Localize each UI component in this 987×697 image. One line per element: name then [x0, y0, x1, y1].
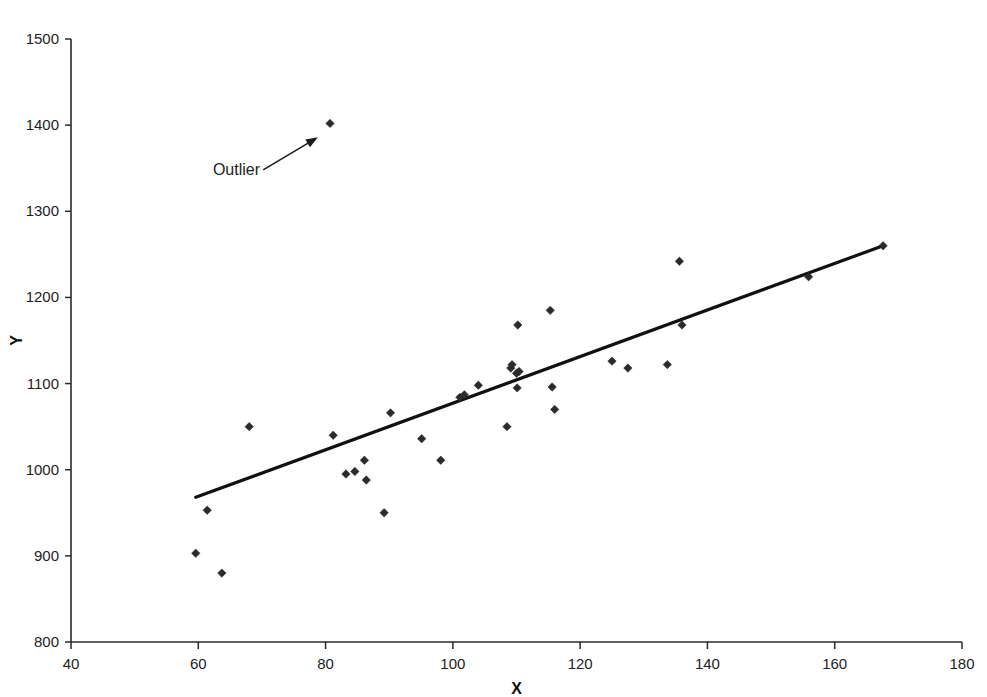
y-axis-tick-label: 1400	[26, 116, 59, 133]
axes-layer: 8009001000110012001300140015004060801001…	[26, 30, 975, 672]
data-point-marker	[546, 306, 554, 314]
data-point-marker	[351, 467, 359, 475]
data-point-marker	[362, 476, 370, 484]
data-point-marker	[417, 435, 425, 443]
y-axis-title: Y	[8, 335, 25, 346]
x-axis-tick-label: 100	[440, 655, 465, 672]
trendline-layer	[196, 246, 883, 498]
data-point-marker	[548, 383, 556, 391]
data-point-marker	[342, 470, 350, 478]
y-axis-tick-label: 1300	[26, 202, 59, 219]
data-point-marker	[624, 364, 632, 372]
regression-line	[196, 246, 883, 498]
data-point-marker	[675, 257, 683, 265]
x-axis-tick-label: 140	[695, 655, 720, 672]
data-point-marker	[386, 409, 394, 417]
y-axis-tick-label: 1000	[26, 461, 59, 478]
data-point-marker	[245, 422, 253, 430]
data-point-marker	[203, 506, 211, 514]
x-axis-title: X	[511, 680, 522, 697]
x-axis-tick-label: 160	[822, 655, 847, 672]
data-point-marker	[437, 456, 445, 464]
data-point-marker	[380, 509, 388, 517]
data-point-marker	[550, 405, 558, 413]
y-axis-tick-label: 800	[34, 633, 59, 650]
data-points-layer	[192, 119, 888, 577]
data-point-marker	[514, 321, 522, 329]
data-point-marker	[218, 569, 226, 577]
data-point-marker	[608, 357, 616, 365]
data-point-marker	[513, 384, 521, 392]
data-point-marker	[192, 549, 200, 557]
x-axis-tick-label: 180	[949, 655, 974, 672]
outlier-arrow-line	[263, 141, 312, 170]
scatter-plot-figure: 8009001000110012001300140015004060801001…	[0, 0, 987, 697]
y-axis-tick-label: 900	[34, 547, 59, 564]
outlier-arrow-head	[305, 137, 318, 147]
y-axis-tick-label: 1500	[26, 30, 59, 47]
data-point-marker	[326, 119, 334, 127]
annotations-layer: Outlier	[213, 137, 318, 178]
y-axis-tick-label: 1200	[26, 288, 59, 305]
data-point-marker	[474, 381, 482, 389]
outlier-annotation-label: Outlier	[213, 161, 261, 178]
data-point-marker	[329, 431, 337, 439]
data-point-marker	[503, 422, 511, 430]
data-point-marker	[879, 242, 887, 250]
x-axis-tick-label: 80	[317, 655, 334, 672]
x-axis-tick-label: 40	[63, 655, 80, 672]
plot-canvas: 8009001000110012001300140015004060801001…	[0, 0, 987, 697]
x-axis-tick-label: 60	[190, 655, 207, 672]
data-point-marker	[663, 360, 671, 368]
data-point-marker	[360, 456, 368, 464]
y-axis-tick-label: 1100	[27, 375, 59, 392]
x-axis-tick-label: 120	[568, 655, 593, 672]
